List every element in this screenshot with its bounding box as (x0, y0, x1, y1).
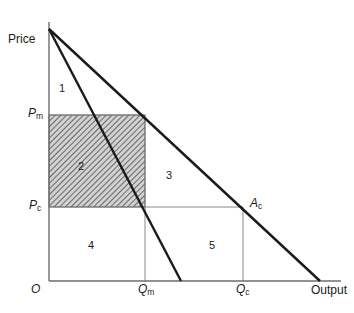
quantity-monopoly-tick: Qm (138, 283, 154, 296)
quantity-monopoly-tick-base: Q (138, 282, 147, 296)
region-label-1: 1 (59, 83, 65, 94)
x-axis-label: Output (311, 284, 347, 296)
price-monopoly-tick-base: P (28, 106, 36, 120)
origin-label: O (31, 283, 40, 295)
demand-curve-label-sub: c (258, 201, 262, 211)
region-label-5: 5 (209, 240, 215, 251)
shaded-region-2-rect (49, 115, 145, 207)
price-competitive-tick-sub: c (37, 203, 41, 213)
quantity-competitive-tick-sub: c (245, 287, 249, 297)
region-label-2: 2 (78, 161, 84, 172)
quantity-monopoly-tick-sub: m (147, 287, 154, 297)
price-competitive-tick: Pc (29, 199, 41, 212)
demand-curve-label-ac: Ac (250, 197, 262, 210)
quantity-competitive-tick: Qc (236, 283, 250, 296)
demand-curve-label-base: A (250, 196, 258, 210)
region-label-3: 3 (166, 170, 172, 181)
price-competitive-tick-base: P (29, 198, 37, 212)
price-monopoly-tick-sub: m (36, 111, 43, 121)
economics-diagram (0, 0, 354, 313)
y-axis-label: Price (8, 33, 35, 45)
region-label-4: 4 (88, 240, 94, 251)
price-monopoly-tick: Pm (28, 107, 43, 120)
quantity-competitive-tick-base: Q (236, 282, 245, 296)
